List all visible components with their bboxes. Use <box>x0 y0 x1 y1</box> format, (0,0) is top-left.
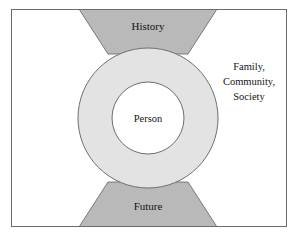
future-label: Future <box>134 200 163 212</box>
history-label: History <box>132 20 166 32</box>
person-label: Person <box>134 113 163 124</box>
diagram-container: History Future Person Family, Community,… <box>0 0 298 237</box>
outer-context-label-line-1: Family, <box>233 61 265 72</box>
outer-context-label-line-3: Society <box>233 91 265 102</box>
context-diagram: History Future Person Family, Community,… <box>0 0 298 237</box>
outer-context-label-line-2: Community, <box>223 76 275 87</box>
